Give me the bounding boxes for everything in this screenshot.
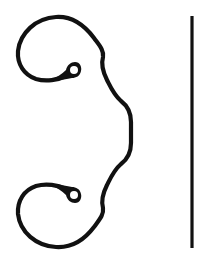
scroll-brace-figure (0, 0, 207, 258)
upper-eyelet (50, 62, 81, 80)
scroll-brace (18, 17, 131, 247)
lower-eyelet (50, 185, 81, 203)
